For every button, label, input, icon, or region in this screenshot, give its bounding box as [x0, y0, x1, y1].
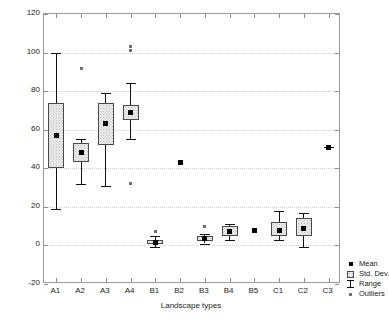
x-axis-tick-label-c1: C1	[273, 287, 283, 295]
whisker-cap	[101, 93, 111, 94]
y-axis-tick	[335, 14, 339, 15]
y-axis-tick-label: 40	[31, 163, 40, 171]
outlier-marker-icon	[345, 289, 356, 299]
x-axis-tick	[56, 14, 57, 18]
outlier-marker	[129, 45, 132, 48]
whisker-cap	[150, 247, 160, 248]
x-axis-tick	[279, 14, 280, 18]
gridline	[44, 91, 339, 92]
y-axis-tick	[44, 53, 48, 54]
y-axis-tick	[44, 245, 48, 246]
x-axis-tick-label-c3: C3	[323, 287, 333, 295]
mean-marker-icon	[345, 259, 356, 269]
outlier-marker	[129, 182, 132, 185]
y-axis-tick-label: 0	[36, 240, 40, 248]
y-axis-tick	[44, 91, 48, 92]
legend-label-range: Range	[356, 279, 381, 289]
outlier-marker	[129, 49, 132, 52]
mean-marker	[252, 228, 257, 233]
x-axis-tick-label-b2: B2	[174, 287, 184, 295]
x-axis-tick-label-b4: B4	[224, 287, 234, 295]
mean-marker	[128, 110, 133, 115]
x-axis-tick	[329, 14, 330, 18]
x-axis-tick-label-a1: A1	[50, 287, 60, 295]
box-plot-chart: HABITAT Landscape types -200204060801001…	[0, 0, 389, 321]
x-axis-tick	[131, 14, 132, 18]
whisker-cap	[274, 211, 284, 212]
gridline	[44, 245, 339, 246]
gridline	[44, 53, 339, 54]
whisker-cap	[76, 139, 86, 140]
x-axis-tick	[304, 278, 305, 282]
x-axis-tick	[155, 14, 156, 18]
x-axis-tick-label-a2: A2	[75, 287, 85, 295]
mean-marker	[277, 228, 282, 233]
x-axis-tick-label-b3: B3	[199, 287, 209, 295]
x-axis-tick	[180, 278, 181, 282]
x-axis-tick	[180, 14, 181, 18]
x-axis-tick	[106, 278, 107, 282]
mean-marker	[326, 145, 331, 150]
x-axis-tick-label-c2: C2	[298, 287, 308, 295]
range-whisker-icon	[345, 279, 356, 289]
whisker-cap	[51, 53, 61, 54]
y-axis-tick-label: 120	[27, 9, 40, 17]
legend-label-mean: Mean	[356, 259, 378, 269]
y-axis-tick	[335, 53, 339, 54]
whisker-cap	[200, 244, 210, 245]
x-axis-tick	[81, 14, 82, 18]
whisker-cap	[150, 236, 160, 237]
y-axis-tick	[335, 245, 339, 246]
x-axis-tick	[81, 278, 82, 282]
mean-marker	[301, 226, 306, 231]
whisker-cap	[274, 240, 284, 241]
x-axis-tick	[56, 278, 57, 282]
mean-marker	[79, 150, 84, 155]
chart-legend: Mean Std. Dev. Range Outliers	[345, 259, 389, 299]
y-axis-tick-label: -20	[28, 279, 40, 287]
y-axis-tick-label: 80	[31, 86, 40, 94]
x-axis-tick	[279, 278, 280, 282]
y-axis-tick	[44, 207, 48, 208]
whisker-cap	[299, 213, 309, 214]
mean-marker	[178, 160, 183, 165]
x-axis-tick	[230, 14, 231, 18]
legend-item-mean: Mean	[345, 259, 389, 269]
std-dev-box-icon	[345, 269, 356, 279]
x-axis-tick-label-b5: B5	[248, 287, 258, 295]
whisker-cap	[51, 209, 61, 210]
x-axis-tick-label-b1: B1	[149, 287, 159, 295]
legend-label-std-dev: Std. Dev.	[356, 269, 389, 279]
x-axis-tick-label-a3: A3	[100, 287, 110, 295]
legend-item-std-dev: Std. Dev.	[345, 269, 389, 279]
y-axis-tick-label: 20	[31, 202, 40, 210]
mean-marker	[103, 121, 108, 126]
x-axis-tick	[254, 278, 255, 282]
mean-marker	[227, 229, 232, 234]
x-axis-tick	[230, 278, 231, 282]
x-axis-title: Landscape types	[161, 301, 222, 310]
gridline	[44, 130, 339, 131]
y-axis-tick-label: 100	[27, 48, 40, 56]
mean-marker	[153, 240, 158, 245]
x-axis-tick	[131, 278, 132, 282]
y-axis-tick	[44, 168, 48, 169]
x-axis-tick	[254, 14, 255, 18]
whisker-cap	[299, 247, 309, 248]
outlier-marker	[203, 225, 206, 228]
whisker-cap	[126, 139, 136, 140]
gridline	[44, 207, 339, 208]
whisker-cap	[225, 240, 235, 241]
y-axis-tick	[335, 168, 339, 169]
y-axis-tick	[335, 207, 339, 208]
legend-label-outliers: Outliers	[356, 289, 385, 299]
x-axis-tick	[329, 278, 330, 282]
x-axis-tick	[155, 278, 156, 282]
outlier-marker	[80, 67, 83, 70]
whisker-cap	[76, 184, 86, 185]
whisker-cap	[126, 83, 136, 84]
y-axis-tick	[335, 91, 339, 92]
y-axis-tick-label: 60	[31, 125, 40, 133]
outlier-marker	[154, 230, 157, 233]
x-axis-tick	[304, 14, 305, 18]
